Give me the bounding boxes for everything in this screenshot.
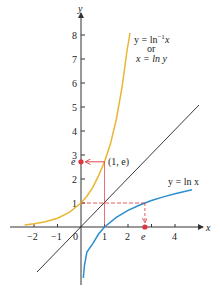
exp-curve-label: y = ln−1x or x = ln y: [134, 33, 170, 64]
exp-curve: [25, 33, 130, 225]
ln-curve-label: y = ln x: [168, 176, 199, 187]
y-tick-label: 6: [72, 78, 77, 89]
e-marker-x-axis: [142, 224, 147, 229]
x-tick-label: 2: [125, 231, 130, 242]
svg-text:x = ln y: x = ln y: [135, 53, 167, 64]
point-label: (1, e): [108, 156, 129, 168]
y-tick-label-e: e: [71, 156, 76, 167]
y-tick-label: 5: [72, 102, 77, 113]
y-ticks: [81, 35, 85, 203]
identity-line: [37, 105, 199, 272]
x-tick-label-e: e: [141, 231, 146, 242]
x-tick-label: 4: [172, 231, 177, 242]
x-tick-label: −1: [51, 231, 62, 242]
inverse-functions-chart: x y −2 −1 0 1 2 e 4 1 2 3 4 5 6 7 8: [0, 0, 220, 290]
y-tick-label: 2: [72, 174, 77, 185]
x-tick-label: −2: [27, 231, 38, 242]
y-tick-label: 4: [72, 126, 77, 137]
x-tick-label: 1: [102, 231, 107, 242]
y-axis-label: y: [77, 3, 83, 14]
e-marker-y-axis: [78, 159, 83, 164]
x-axis-label: x: [205, 222, 211, 233]
y-tick-label: 8: [72, 30, 77, 41]
y-tick-label: 7: [72, 54, 77, 65]
